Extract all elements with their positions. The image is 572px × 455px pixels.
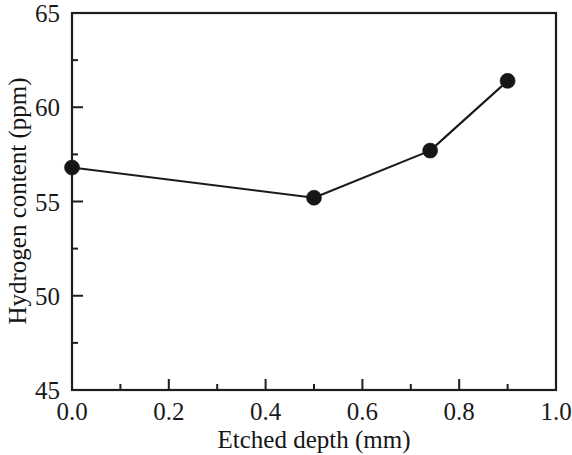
data-point-marker <box>307 190 322 205</box>
y-tick-label: 55 <box>35 189 60 216</box>
x-tick-label: 1.0 <box>540 398 571 425</box>
y-tick-label: 50 <box>35 283 60 310</box>
x-tick-label: 0.0 <box>56 398 87 425</box>
data-point-marker <box>500 73 515 88</box>
y-tick-label: 60 <box>35 94 60 121</box>
y-axis-title: Hydrogen content (ppm) <box>4 77 32 324</box>
x-tick-label: 0.6 <box>347 398 378 425</box>
x-tick-label: 0.8 <box>444 398 475 425</box>
y-tick-label: 65 <box>35 0 60 27</box>
chart-background <box>0 0 572 455</box>
data-point-marker <box>65 160 80 175</box>
line-chart-svg: 4550556065 0.00.20.40.60.81.0 Etched dep… <box>0 0 572 455</box>
x-axis-title: Etched depth (mm) <box>218 426 411 454</box>
x-tick-label: 0.4 <box>250 398 282 425</box>
data-point-marker <box>423 143 438 158</box>
chart-figure: 4550556065 0.00.20.40.60.81.0 Etched dep… <box>0 0 572 455</box>
x-tick-label: 0.2 <box>153 398 184 425</box>
